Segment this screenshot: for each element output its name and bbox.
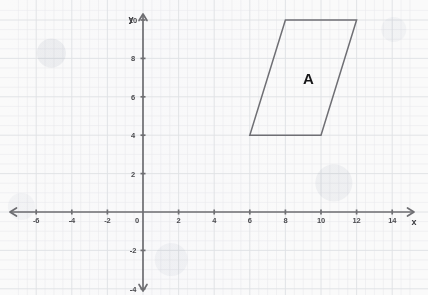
- graph-canvas: -6-4-202468101214108642-2-4xyA: [0, 0, 428, 295]
- x-tick-label-14: 14: [388, 216, 396, 225]
- coordinate-axes: [10, 14, 414, 291]
- y-tick-label-6: 6: [131, 92, 135, 101]
- x-tick-label-neg4: -4: [69, 216, 75, 225]
- x-tick-label-10: 10: [317, 216, 325, 225]
- y-tick-label-neg2: -2: [130, 246, 136, 255]
- x-tick-label-neg6: -6: [33, 216, 39, 225]
- x-tick-label-6: 6: [248, 216, 252, 225]
- x-tick-label-2: 2: [177, 216, 181, 225]
- x-tick-label-8: 8: [283, 216, 287, 225]
- y-tick-label-neg4: -4: [130, 284, 136, 293]
- x-tick-label-neg2: -2: [104, 216, 110, 225]
- shape-label-a: A: [303, 69, 314, 86]
- x-tick-label-4: 4: [212, 216, 216, 225]
- x-tick-label-12: 12: [353, 216, 361, 225]
- plot-layer: [0, 0, 428, 295]
- y-tick-label-2: 2: [131, 169, 135, 178]
- x-axis-name: x: [411, 217, 416, 227]
- y-axis-name: y: [128, 14, 133, 24]
- y-tick-label-8: 8: [131, 54, 135, 63]
- x-tick-label-0: 0: [135, 216, 139, 225]
- y-tick-label-4: 4: [131, 131, 135, 140]
